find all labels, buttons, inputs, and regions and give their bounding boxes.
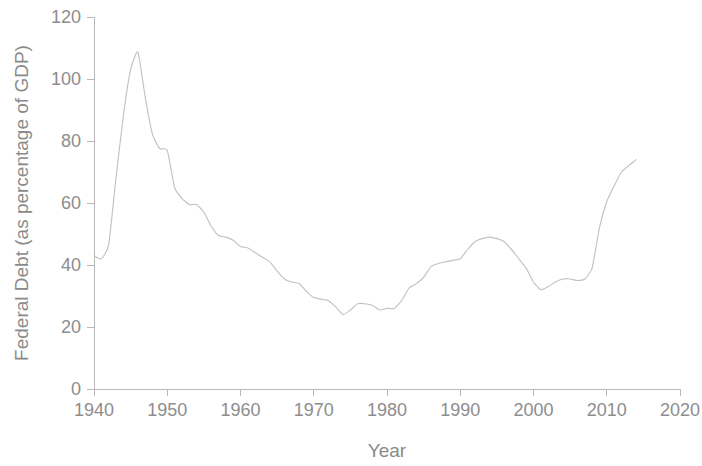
x-tick-label: 1950: [147, 400, 187, 420]
y-tick-label: 40: [61, 255, 81, 275]
y-tick-label: 120: [51, 7, 81, 27]
x-tick-label: 2010: [587, 400, 627, 420]
y-axis-title: Federal Debt (as percentage of GDP): [11, 45, 32, 361]
y-tick-label: 0: [71, 379, 81, 399]
x-tick-label: 1980: [367, 400, 407, 420]
y-tick-label: 20: [61, 317, 81, 337]
debt-series-line: [94, 52, 636, 315]
x-axis-ticks: 194019501960197019801990200020102020: [74, 389, 700, 420]
x-tick-label: 2000: [513, 400, 553, 420]
x-tick-label: 1990: [440, 400, 480, 420]
y-axis: 020406080100120: [51, 7, 94, 399]
federal-debt-line-chart: 020406080100120 194019501960197019801990…: [0, 0, 702, 466]
y-tick-label: 80: [61, 131, 81, 151]
plot-area: [94, 52, 636, 315]
x-tick-label: 1940: [74, 400, 114, 420]
x-axis-title: Year: [368, 440, 407, 461]
x-tick-label: 1960: [220, 400, 260, 420]
y-tick-label: 60: [61, 193, 81, 213]
y-axis-ticks: 020406080100120: [51, 7, 94, 399]
x-tick-label: 1970: [294, 400, 334, 420]
y-tick-label: 100: [51, 69, 81, 89]
x-tick-label: 2020: [660, 400, 700, 420]
x-axis: 194019501960197019801990200020102020: [74, 389, 700, 420]
chart-container: 020406080100120 194019501960197019801990…: [0, 0, 702, 466]
